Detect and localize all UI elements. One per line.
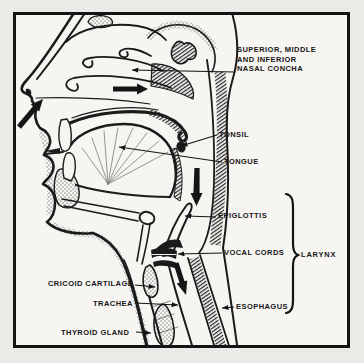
label-nasal-concha: SUPERIOR, MIDDLE AND INFERIOR NASAL CONC…	[237, 45, 316, 74]
label-thyroid-gland: THYROID GLAND	[61, 328, 129, 338]
label-larynx: LARYNX	[301, 250, 336, 260]
label-cricoid-cartilage: CRICOID CARTILAGE	[48, 279, 133, 289]
anatomy-figure: SUPERIOR, MIDDLE AND INFERIOR NASAL CONC…	[0, 0, 364, 363]
label-trachea: TRACHEA	[93, 299, 133, 309]
label-epiglottis: EPIGLOTTIS	[218, 211, 267, 221]
label-vocal-cords: VOCAL CORDS	[224, 248, 284, 258]
upper-incisor	[59, 119, 71, 151]
label-tonsil: TONSIL	[219, 130, 249, 140]
label-esophagus: ESOPHAGUS	[236, 302, 288, 312]
label-tongue: TONGUE	[224, 157, 259, 167]
lower-incisor	[63, 153, 75, 181]
